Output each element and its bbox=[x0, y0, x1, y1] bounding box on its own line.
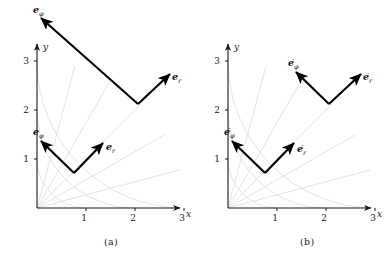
label-e-phi-hat-inner-b: e φ ˆ bbox=[224, 126, 235, 140]
ytick-a-2: 2 bbox=[23, 105, 29, 115]
panel-a: 1 2 3 1 2 3 x y e φ e r bbox=[23, 4, 191, 223]
svg-text:φ: φ bbox=[39, 132, 44, 140]
label-e-r-inner-a: e r bbox=[106, 141, 116, 155]
svg-text:r: r bbox=[369, 77, 373, 85]
xtick-b-3: 3 bbox=[370, 213, 376, 223]
xaxis-label-b: x bbox=[377, 209, 382, 219]
label-e-r-outer-a: e r bbox=[172, 71, 182, 85]
label-e-phi-outer-a: e φ bbox=[33, 4, 44, 18]
label-e-phi-inner-a: e φ bbox=[33, 126, 44, 140]
vector-e-phi-inner-a bbox=[41, 141, 74, 173]
vectors-a-outer bbox=[41, 18, 170, 104]
ytick-b-1: 1 bbox=[214, 154, 220, 164]
vector-e-r-inner-a bbox=[74, 143, 103, 173]
panel-b: 1 2 3 1 2 3 x y e φ ˆ e r ˆ bbox=[214, 42, 382, 223]
hat-accent-icon: ˆ bbox=[228, 127, 231, 134]
xtick-a-3: 3 bbox=[179, 213, 185, 223]
svg-text:φ: φ bbox=[39, 10, 44, 18]
caption-panel-b: (b) bbox=[300, 236, 314, 247]
vector-e-r-outer-a bbox=[138, 74, 170, 104]
xtick-a-2: 2 bbox=[130, 213, 136, 223]
vector-e-phi-outer-a bbox=[41, 18, 138, 104]
vector-e-r-hat-outer-b bbox=[329, 74, 361, 104]
polar-grid-b bbox=[228, 61, 375, 208]
vector-e-phi-hat-outer-b bbox=[296, 72, 329, 104]
hat-accent-icon: ˆ bbox=[301, 144, 304, 151]
figure-canvas: 1 2 3 1 2 3 x y e φ e r bbox=[0, 0, 391, 262]
vectors-b-outer bbox=[296, 72, 361, 104]
xtick-b-1: 1 bbox=[272, 213, 278, 223]
ytick-a-1: 1 bbox=[23, 154, 29, 164]
hat-accent-icon: ˆ bbox=[292, 58, 295, 65]
label-e-phi-hat-outer-b: e φ ˆ bbox=[288, 57, 299, 71]
vector-e-phi-hat-inner-b bbox=[232, 141, 265, 173]
svg-text:r: r bbox=[112, 147, 116, 155]
figure-polar-basis-vectors: 1 2 3 1 2 3 x y e φ e r bbox=[0, 0, 391, 262]
ytick-b-2: 2 bbox=[214, 105, 220, 115]
label-e-r-hat-outer-b: e r ˆ bbox=[363, 71, 373, 85]
polar-grid-a bbox=[37, 61, 184, 208]
ytick-b-3: 3 bbox=[214, 56, 220, 66]
vector-e-r-hat-inner-b bbox=[265, 143, 294, 173]
xtick-b-2: 2 bbox=[321, 213, 327, 223]
caption-panel-a: (a) bbox=[104, 236, 118, 247]
label-e-r-hat-inner-b: e r ˆ bbox=[297, 143, 307, 157]
svg-text:r: r bbox=[178, 77, 182, 85]
yaxis-label-b: y bbox=[233, 42, 240, 52]
xtick-a-1: 1 bbox=[81, 213, 87, 223]
yaxis-label-a: y bbox=[42, 42, 49, 52]
svg-text:r: r bbox=[303, 149, 307, 157]
ytick-a-3: 3 bbox=[23, 56, 29, 66]
hat-accent-icon: ˆ bbox=[367, 72, 370, 79]
xaxis-label-a: x bbox=[186, 209, 191, 219]
